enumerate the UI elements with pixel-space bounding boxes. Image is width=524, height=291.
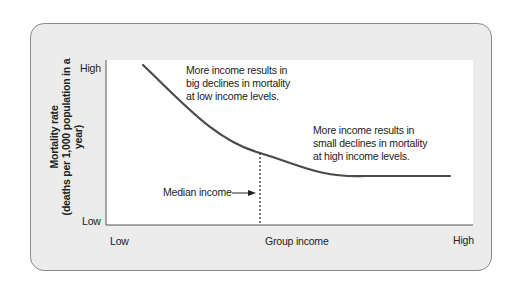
annotation-line: More income results in — [186, 64, 290, 77]
annotation-line: small declines in mortality — [313, 137, 427, 150]
y-axis-title-line1: Mortality rate — [48, 52, 60, 222]
y-axis-title: Mortality rate (deaths per 1,000 populat… — [48, 52, 84, 222]
annotation-line: big declines in mortality — [186, 77, 290, 90]
annotation-line: at low income levels. — [186, 90, 290, 103]
x-tick-high: High — [453, 234, 474, 247]
annotation-line: at high income levels. — [313, 150, 427, 163]
x-tick-low: Low — [110, 235, 129, 248]
y-axis-title-line2: (deaths per 1,000 population in a year) — [60, 52, 84, 222]
median-income-label: Median income — [163, 186, 232, 199]
arrow-head-icon — [248, 190, 256, 196]
x-axis-title: Group income — [265, 235, 329, 248]
y-tick-low: Low — [82, 215, 101, 228]
annotation-high-income: More income results in small declines in… — [313, 124, 427, 163]
annotation-low-income: More income results in big declines in m… — [186, 64, 290, 103]
annotation-line: More income results in — [313, 124, 427, 137]
